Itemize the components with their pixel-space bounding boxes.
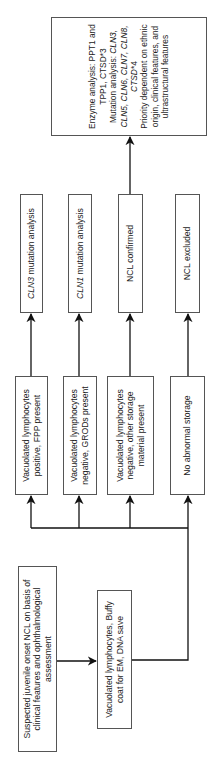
- finding-text: No abnormal storage: [182, 395, 193, 475]
- finding-box-other-storage: Vacuolated lymphocytes negative, other s…: [107, 376, 154, 495]
- priority-text: Priority dependent on ethnic origin, cli…: [139, 21, 170, 132]
- followup-box-enzyme-mutation: Enzyme analysis: PPT1 and TPP1, CTSD*3 M…: [51, 17, 207, 136]
- result-text: mutation analysis: [26, 208, 36, 277]
- enzyme-analysis-text: Enzyme analysis: PPT1 and TPP1, CTSD*3: [87, 21, 108, 132]
- result-text: NCL confirmed: [125, 225, 136, 282]
- start-text: Suspected juvenile onset NCL on basis of…: [22, 570, 54, 748]
- sampling-text: Vacuolated lymphocytes, Buffy coat for E…: [104, 594, 125, 725]
- mutation-analysis-label: Mutation analysis:: [108, 54, 118, 123]
- gene-name: CLN3: [26, 277, 36, 299]
- result-box-ncl-confirmed: NCL confirmed: [118, 194, 143, 313]
- finding-box-fpp: Vacuolated lymphocytes positive, FPP pre…: [15, 376, 48, 495]
- result-box-ncl-excluded: NCL excluded: [175, 194, 200, 313]
- finding-text: Vacuolated lymphocytes negative, GRODs p…: [69, 380, 90, 491]
- finding-box-grods: Vacuolated lymphocytes negative, GRODs p…: [63, 376, 97, 495]
- finding-text: Vacuolated lymphocytes positive, FPP pre…: [21, 380, 42, 491]
- finding-text: Vacuolated lymphocytes negative, other s…: [115, 380, 147, 491]
- result-box-cln1: CLN1 mutation analysis: [68, 194, 92, 313]
- flowchart: Suspected juvenile onset NCL on basis of…: [0, 0, 210, 784]
- gene-name: CLN1: [75, 277, 85, 299]
- footnote-marker: *4: [129, 61, 139, 69]
- result-text: NCL excluded: [182, 227, 193, 281]
- start-box-suspected-ncl: Suspected juvenile onset NCL on basis of…: [18, 566, 57, 752]
- sampling-box: Vacuolated lymphocytes, Buffy coat for E…: [97, 590, 132, 729]
- result-box-cln3: CLN3 mutation analysis: [20, 194, 43, 313]
- finding-box-no-storage: No abnormal storage: [170, 376, 205, 495]
- result-text: mutation analysis: [75, 208, 85, 277]
